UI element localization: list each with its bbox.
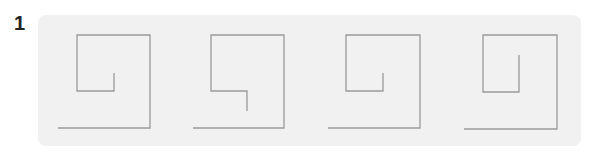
- spiral-figure-2[interactable]: [193, 35, 284, 128]
- spiral-figure-3[interactable]: [328, 35, 420, 128]
- spiral-figures: [0, 0, 589, 155]
- spiral-figure-1[interactable]: [58, 35, 150, 128]
- spiral-figure-4[interactable]: [464, 35, 557, 129]
